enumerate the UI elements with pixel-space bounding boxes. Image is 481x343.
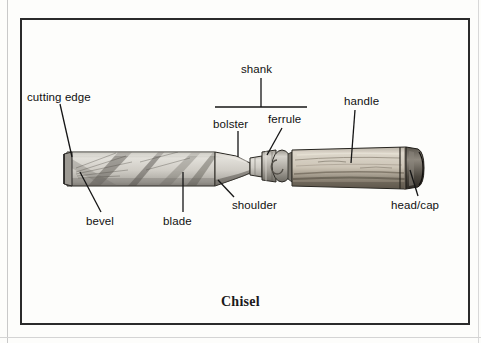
label-cutting-edge: cutting edge [27,92,91,104]
label-bevel: bevel [86,216,114,228]
blade-part [67,150,215,186]
label-bolster: bolster [213,119,248,131]
figure-page: cutting edge shank handle bolster ferrul… [0,0,481,343]
head-cap-part [406,147,424,189]
label-blade: blade [163,216,192,228]
shoulder-part [215,152,250,186]
label-shank: shank [241,64,272,76]
bolster-part [250,156,262,177]
figure-caption: Chisel [0,294,481,310]
label-shoulder: shoulder [232,200,277,212]
label-head-cap: head/cap [391,200,439,212]
handle-part [292,147,408,190]
label-ferrule: ferrule [268,114,301,126]
label-handle: handle [344,96,379,108]
ferrule-part [262,150,292,182]
bevel-part [64,152,72,186]
chisel-illustration [0,0,481,343]
